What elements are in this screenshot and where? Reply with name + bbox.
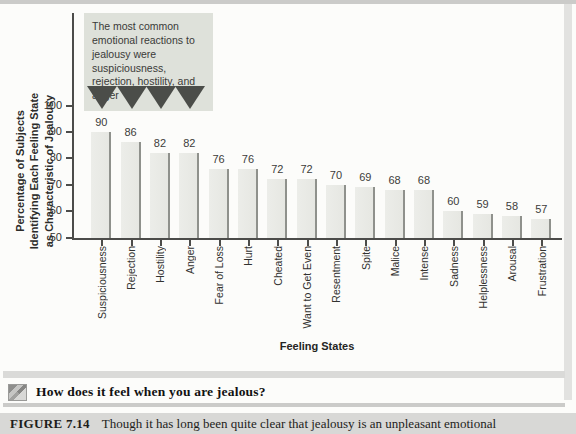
bar-value-label: 72 [261, 163, 293, 175]
question-row: How does it feel when you are jealous? [8, 382, 558, 402]
y-tick-mark [66, 184, 72, 186]
bar-value-label: 72 [291, 163, 323, 175]
y-tick-mark [66, 105, 72, 107]
y-tick-label: 70 [34, 178, 62, 190]
bar-value-label: 82 [173, 137, 205, 149]
bar-value-label: 59 [467, 198, 499, 210]
bar [531, 219, 551, 238]
y-tick-label: 100 [34, 99, 62, 111]
y-axis-title: Percentage of Subjects Identifying Each … [13, 93, 56, 249]
y-axis-title-line: as Characteristic of Jealousy [41, 93, 55, 249]
figure-caption: FIGURE 7.14 Though it has long been quit… [0, 413, 576, 434]
x-axis-title: Feeling States [197, 340, 437, 352]
y-tick-label: 90 [34, 125, 62, 137]
bar [443, 211, 463, 238]
bar-value-label: 69 [349, 171, 381, 183]
y-tick-mark [66, 131, 72, 133]
y-axis-title-line: Percentage of Subjects [13, 93, 27, 249]
x-category-label: Fear of Loss [213, 246, 226, 304]
photo-thumbnail-icon [8, 384, 27, 401]
y-tick-label: 50 [34, 231, 62, 243]
x-category-label: Sadness [448, 246, 461, 287]
question-text: How does it feel when you are jealous? [36, 384, 266, 400]
bar-value-label: 57 [525, 203, 557, 215]
page-top-edge [0, 0, 576, 4]
y-axis-title-line: Identifying Each Feeling State [27, 93, 41, 249]
bar-value-label: 70 [320, 169, 352, 181]
x-category-label: Rejection [125, 246, 138, 290]
bar [179, 153, 199, 238]
bar-value-label: 90 [85, 116, 117, 128]
bar [502, 216, 522, 238]
down-arrow-icon [146, 86, 176, 109]
bar [209, 169, 229, 238]
bar [385, 190, 405, 238]
bar-value-label: 86 [115, 126, 147, 138]
divider-rule-bottom [3, 403, 565, 407]
down-arrow-icon [87, 86, 117, 109]
x-category-label: Suspiciousness [96, 246, 109, 319]
y-tick-mark [66, 237, 72, 239]
y-axis [72, 13, 74, 240]
x-category-label: Spite [360, 246, 373, 270]
x-category-label: Malice [389, 246, 402, 276]
page-right-edge [564, 4, 572, 400]
x-category-label: Want to Get Even [301, 246, 314, 328]
bar [91, 132, 111, 238]
bar-value-label: 68 [408, 174, 440, 186]
x-category-label: Frustration [536, 246, 549, 296]
x-category-label: Hurt [242, 246, 255, 266]
x-category-label: Cheated [272, 246, 285, 286]
figure-caption-text: Though it has long been quite clear that… [102, 416, 496, 432]
x-category-label: Anger [184, 246, 197, 274]
bar [473, 214, 493, 238]
y-tick-mark [66, 157, 72, 159]
y-tick-label: 60 [34, 204, 62, 216]
bar [121, 142, 141, 238]
y-tick-mark [66, 210, 72, 212]
bar-value-label: 60 [437, 195, 469, 207]
bar-value-label: 76 [203, 153, 235, 165]
bar [355, 187, 375, 238]
y-tick-label: 80 [34, 151, 62, 163]
bar-value-label: 82 [144, 137, 176, 149]
bar [267, 179, 287, 238]
bar [414, 190, 434, 238]
x-category-label: Hostility [154, 246, 167, 283]
x-category-label: Intense [418, 246, 431, 280]
x-category-label: Resentment [330, 246, 343, 303]
bar-value-label: 76 [232, 153, 264, 165]
figure-caption-label: FIGURE 7.14 [10, 416, 90, 432]
bar-value-label: 58 [496, 200, 528, 212]
divider-rule-top [3, 371, 565, 378]
x-category-label: Arousal [506, 246, 519, 282]
x-axis [72, 238, 562, 240]
bar [150, 153, 170, 238]
bar [297, 179, 317, 238]
x-category-label: Helplessness [477, 246, 490, 308]
bar [326, 185, 346, 238]
bar-value-label: 68 [379, 174, 411, 186]
bar [238, 169, 258, 238]
down-arrow-icon [117, 86, 147, 109]
figure-7-14: Percentage of Subjects Identifying Each … [0, 0, 576, 434]
down-arrow-icon [175, 86, 205, 109]
